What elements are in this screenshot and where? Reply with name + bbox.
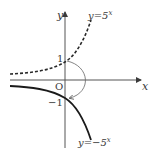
function-graph: y x O 1 −1 y=5x y=−5x [0, 0, 153, 160]
origin-label: O [55, 81, 63, 92]
curve-label-y-5x: y=5x [87, 9, 112, 21]
y-intercept-neg1-label: −1 [48, 97, 63, 108]
curve-label-y-neg-5x: y=−5x [77, 136, 111, 148]
y-axis-label: y [56, 9, 64, 22]
curve-y-5x [10, 20, 91, 74]
x-axis-label: x [142, 80, 149, 93]
y-intercept-1-label: 1 [57, 53, 63, 64]
